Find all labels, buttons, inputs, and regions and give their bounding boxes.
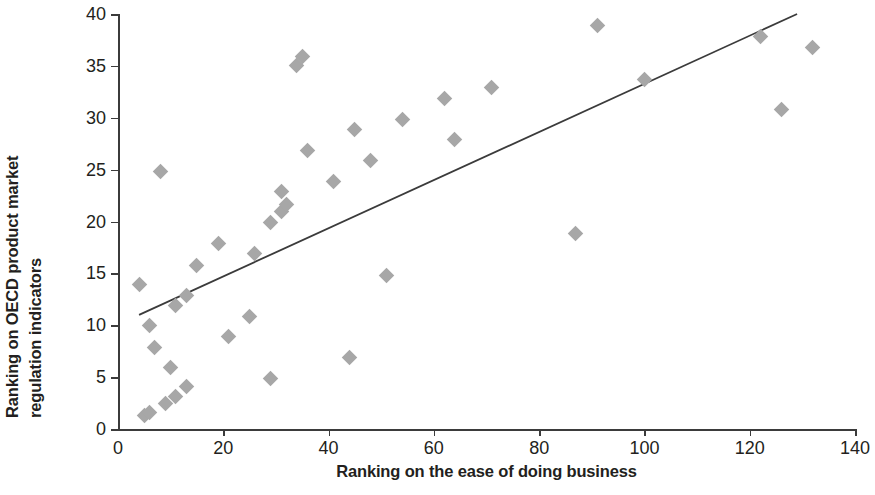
y-tick-label-35: 35 bbox=[86, 57, 106, 75]
data-point bbox=[179, 379, 195, 395]
x-tick-40 bbox=[329, 429, 331, 436]
data-point bbox=[752, 29, 768, 45]
x-axis-title: Ranking on the ease of doing business bbox=[118, 462, 855, 481]
y-tick-label-0: 0 bbox=[96, 420, 106, 438]
data-point bbox=[210, 236, 226, 252]
x-tick-label-40: 40 bbox=[319, 439, 339, 457]
plot-area: 0510152025303540 020406080100120140 bbox=[118, 14, 855, 429]
x-tick-label-80: 80 bbox=[529, 439, 549, 457]
y-tick-15 bbox=[111, 273, 118, 275]
y-tick-label-40: 40 bbox=[86, 5, 106, 23]
data-point bbox=[247, 246, 263, 262]
x-tick-100 bbox=[644, 429, 646, 436]
y-tick-25 bbox=[111, 170, 118, 172]
data-point bbox=[147, 339, 163, 355]
data-point bbox=[342, 350, 358, 366]
x-tick-20 bbox=[223, 429, 225, 436]
x-tick-120 bbox=[750, 429, 752, 436]
y-tick-label-25: 25 bbox=[86, 161, 106, 179]
x-tick-60 bbox=[434, 429, 436, 436]
data-point bbox=[347, 121, 363, 137]
data-point bbox=[221, 329, 237, 345]
y-tick-20 bbox=[111, 222, 118, 224]
y-axis-title-line-2: regulation indicators bbox=[26, 258, 45, 418]
data-point bbox=[142, 317, 158, 333]
y-tick-35 bbox=[111, 66, 118, 68]
y-axis-title-line-1: Ranking on OECD product market bbox=[3, 156, 22, 418]
data-point bbox=[242, 309, 258, 325]
data-point bbox=[263, 370, 279, 386]
data-point bbox=[168, 298, 184, 314]
data-point bbox=[589, 18, 605, 34]
x-tick-label-0: 0 bbox=[113, 439, 123, 457]
data-point bbox=[300, 143, 316, 159]
y-tick-5 bbox=[111, 377, 118, 379]
y-tick-10 bbox=[111, 325, 118, 327]
data-point bbox=[568, 226, 584, 242]
y-axis-line bbox=[118, 14, 120, 429]
data-point bbox=[131, 277, 147, 293]
y-tick-30 bbox=[111, 118, 118, 120]
y-tick-label-5: 5 bbox=[96, 368, 106, 386]
data-point bbox=[263, 215, 279, 231]
y-tick-label-30: 30 bbox=[86, 109, 106, 127]
x-tick-80 bbox=[539, 429, 541, 436]
y-tick-label-15: 15 bbox=[86, 264, 106, 282]
x-tick-label-120: 120 bbox=[735, 439, 765, 457]
data-point bbox=[363, 153, 379, 169]
x-tick-label-60: 60 bbox=[424, 439, 444, 457]
y-tick-label-20: 20 bbox=[86, 213, 106, 231]
x-tick-label-140: 140 bbox=[840, 439, 870, 457]
data-point bbox=[326, 173, 342, 189]
y-tick-0 bbox=[111, 429, 118, 431]
data-point bbox=[163, 360, 179, 376]
data-point bbox=[805, 39, 821, 55]
trend-line bbox=[118, 14, 855, 429]
data-point bbox=[484, 80, 500, 96]
data-point bbox=[637, 72, 653, 88]
data-point bbox=[437, 90, 453, 106]
chart-figure: Ranking on OECD product market regulatio… bbox=[0, 0, 875, 495]
x-tick-140 bbox=[855, 429, 857, 436]
data-point bbox=[394, 112, 410, 128]
data-point bbox=[447, 132, 463, 148]
y-tick-label-10: 10 bbox=[86, 316, 106, 334]
x-axis-line bbox=[118, 429, 855, 431]
y-tick-40 bbox=[111, 14, 118, 16]
data-point bbox=[774, 102, 790, 118]
x-tick-label-20: 20 bbox=[213, 439, 233, 457]
data-point bbox=[189, 257, 205, 273]
y-axis-title: Ranking on OECD product market regulatio… bbox=[0, 0, 64, 440]
x-tick-label-100: 100 bbox=[629, 439, 659, 457]
data-point bbox=[152, 164, 168, 180]
data-point bbox=[379, 268, 395, 284]
data-point bbox=[179, 287, 195, 303]
